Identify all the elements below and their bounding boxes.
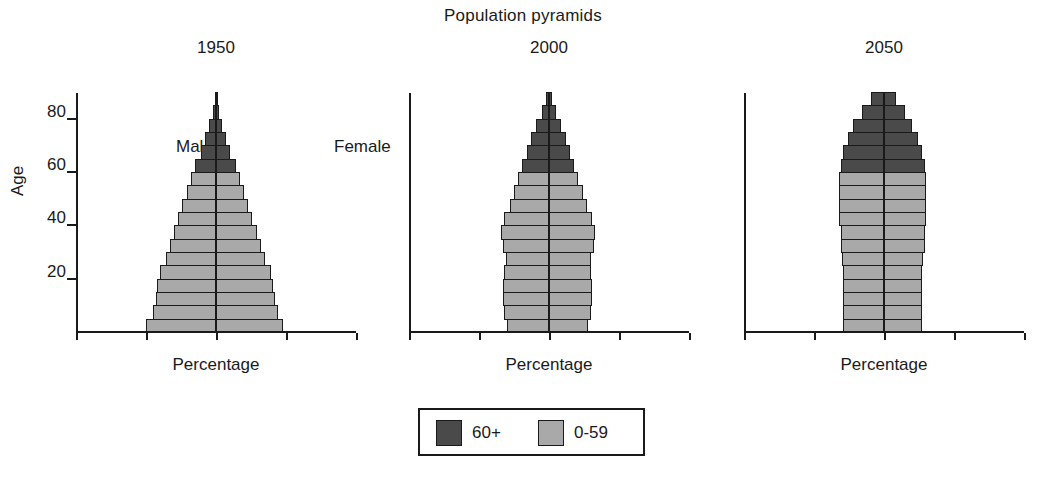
pyramid-bar [841, 239, 884, 253]
panel-title: 1950 [76, 38, 356, 58]
population-pyramid-figure: Population pyramids 1950MaleFemale204060… [0, 0, 1046, 486]
pyramid-bar [843, 279, 884, 293]
pyramid-bar [549, 225, 595, 239]
plot-area [744, 93, 1024, 333]
y-axis-tick [67, 224, 76, 226]
x-axis-tick [479, 333, 481, 340]
pyramid-bar [884, 252, 923, 266]
pyramid-bar [166, 252, 216, 266]
pyramid-bar [549, 199, 587, 213]
pyramid-bar [843, 292, 884, 306]
pyramid-bar [216, 305, 278, 319]
pyramid-bar [216, 119, 222, 133]
pyramid-bar [549, 119, 561, 133]
x-axis-title: Percentage [409, 355, 689, 375]
x-axis-tick [356, 333, 358, 340]
pyramid-bar [549, 239, 594, 253]
x-axis-title: Percentage [76, 355, 356, 375]
pyramid-bar [216, 105, 219, 119]
pyramid-bar [209, 119, 216, 133]
pyramid-bar [178, 212, 216, 226]
x-axis-tick [549, 333, 551, 340]
plot-area [409, 93, 689, 333]
pyramid-bar [549, 185, 583, 199]
pyramid-bar [884, 212, 926, 226]
pyramid-bar [884, 119, 912, 133]
legend-item-young: 0-59 [538, 420, 608, 446]
panel-title: 2050 [744, 38, 1024, 58]
pyramid-bar [848, 132, 884, 146]
pyramid-panel-2050: 2050Percentage [744, 0, 1024, 400]
pyramid-bar [549, 92, 552, 106]
pyramid-bar [843, 265, 884, 279]
pyramid-bar [157, 279, 216, 293]
pyramid-bar [839, 199, 884, 213]
pyramid-bar [504, 265, 549, 279]
y-axis-tick-label: 20 [28, 263, 66, 280]
pyramid-bar [884, 239, 925, 253]
x-axis-tick [286, 333, 288, 340]
x-axis-tick [884, 333, 886, 340]
legend-label-young: 0-59 [574, 423, 608, 443]
pyramid-bar [504, 212, 549, 226]
pyramid-bar [216, 265, 271, 279]
panel-title: 2000 [409, 38, 689, 58]
pyramid-bar [205, 132, 216, 146]
pyramid-bar [170, 239, 216, 253]
pyramid-bar [549, 145, 570, 159]
pyramid-panel-1950: 1950MaleFemale20406080Percentage [76, 0, 356, 400]
pyramid-bar [542, 105, 549, 119]
y-axis-title: Age [8, 166, 28, 196]
pyramid-bar [549, 305, 591, 319]
y-axis-tick-label: 80 [28, 103, 66, 120]
pyramid-bar [191, 172, 216, 186]
pyramid-bar [549, 159, 574, 173]
pyramid-bar [527, 145, 549, 159]
pyramid-bar [884, 265, 922, 279]
pyramid-bar [853, 119, 884, 133]
legend-label-old: 60+ [472, 423, 501, 443]
pyramid-bar [549, 265, 591, 279]
y-axis-line [76, 93, 78, 333]
x-axis-tick [146, 333, 148, 340]
legend-swatch-young-icon [538, 420, 564, 446]
pyramid-bar [841, 225, 884, 239]
y-axis-tick-label: 40 [28, 209, 66, 226]
x-axis-tick [619, 333, 621, 340]
pyramid-bar [549, 172, 578, 186]
pyramid-bar [862, 105, 884, 119]
pyramid-bar [153, 305, 216, 319]
y-axis-line [744, 93, 746, 333]
pyramid-bar [216, 92, 218, 106]
chart-legend: 60+ 0-59 [418, 408, 645, 456]
pyramid-bar [160, 265, 216, 279]
pyramid-bar [216, 145, 230, 159]
pyramid-panel-2000: 2000Percentage [409, 0, 689, 400]
pyramid-bar [503, 292, 549, 306]
pyramid-bar [216, 159, 236, 173]
legend-item-old: 60+ [436, 420, 501, 446]
pyramid-bar [884, 105, 905, 119]
pyramid-bar [174, 225, 216, 239]
y-axis-line [409, 93, 411, 333]
pyramid-bar [843, 305, 884, 319]
pyramid-bar [216, 212, 252, 226]
pyramid-bar [216, 199, 248, 213]
y-axis-tick [67, 171, 76, 173]
pyramid-bar [884, 279, 922, 293]
pyramid-bar [216, 279, 273, 293]
pyramid-bar [195, 159, 216, 173]
x-axis-tick [216, 333, 218, 340]
pyramid-bar [884, 225, 925, 239]
pyramid-bar [503, 279, 549, 293]
pyramid-bar [187, 185, 216, 199]
pyramid-bar [518, 172, 549, 186]
pyramid-bar [503, 239, 549, 253]
x-axis-tick [954, 333, 956, 340]
pyramid-bar [531, 132, 549, 146]
pyramid-bar [884, 132, 918, 146]
y-axis-tick [67, 118, 76, 120]
pyramid-bar [504, 305, 549, 319]
pyramid-bar [549, 252, 591, 266]
pyramid-bar [216, 172, 240, 186]
